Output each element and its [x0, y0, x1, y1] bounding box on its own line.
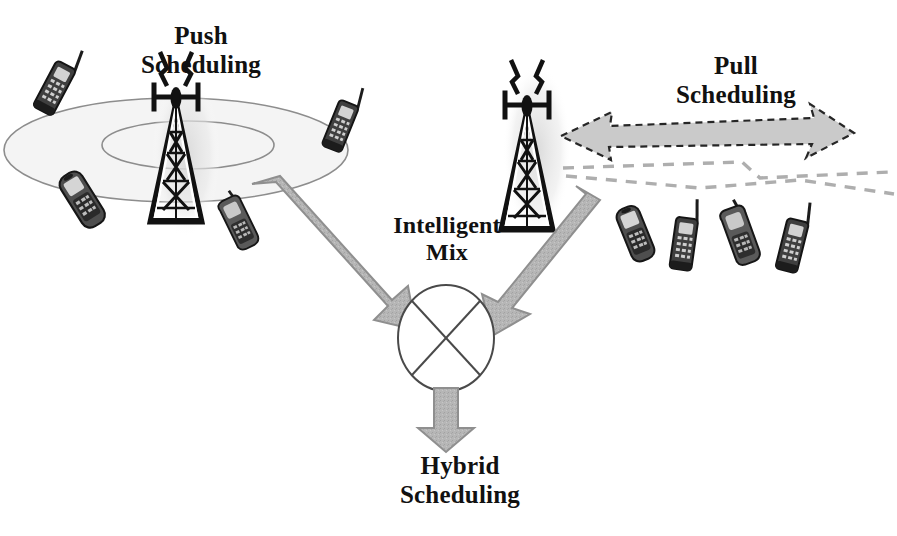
phone-push-2: [321, 82, 366, 153]
intelligent-mix-node: [398, 285, 494, 391]
diagram-canvas: Push Scheduling Pull Scheduling Intellig…: [0, 0, 897, 536]
pull-scheduling-label: Pull Scheduling: [636, 52, 836, 109]
pull-request-arrow: [561, 104, 854, 160]
phone-pull-4: [775, 198, 814, 273]
pull-link-upper: [563, 162, 890, 178]
pull-link-lower: [566, 176, 894, 194]
intelligent-mix-label: Intelligent Mix: [352, 212, 542, 267]
push-scheduling-label: Push Scheduling: [106, 22, 296, 79]
phone-pull-3: [716, 197, 762, 267]
mix-to-hybrid-arrow: [418, 388, 474, 452]
phone-pull-1: [614, 203, 657, 264]
hybrid-scheduling-label: Hybrid Scheduling: [360, 452, 560, 509]
phone-push-1: [33, 42, 86, 116]
pull-link-lines: [563, 162, 894, 194]
phone-pull-2: [669, 197, 701, 271]
